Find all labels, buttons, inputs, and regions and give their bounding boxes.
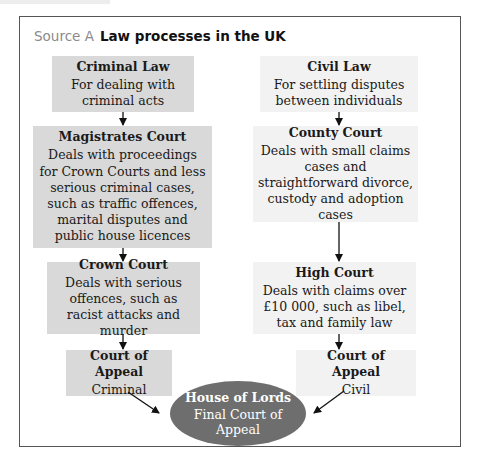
court-of-appeal-criminal-box: Court of Appeal Criminal: [66, 350, 172, 396]
court-of-appeal-civil-box: Court of Appeal Civil: [296, 350, 416, 396]
house-of-lords-heading: House of Lords: [185, 390, 291, 406]
county-court-box: County Court Deals with small claims cas…: [253, 126, 418, 222]
page-edge-strip: [0, 0, 110, 4]
high-court-box: High Court Deals with claims over £10 00…: [253, 262, 416, 334]
civil-law-heading: Civil Law: [307, 59, 370, 75]
court-of-appeal-civil-heading: Court of Appeal: [302, 348, 410, 380]
civil-law-description: For settling disputes between individual…: [264, 77, 414, 109]
criminal-law-heading: Criminal Law: [76, 59, 169, 75]
title-text: Law processes in the UK: [100, 28, 286, 44]
county-court-heading: County Court: [289, 125, 383, 141]
high-court-description: Deals with claims over £10 000, such as …: [260, 283, 410, 332]
criminal-law-box: Criminal Law For dealing with criminal a…: [52, 56, 194, 112]
county-court-description: Deals with small claims cases and straig…: [257, 143, 415, 224]
magistrates-court-description: Deals with proceedings for Crown Courts …: [38, 147, 208, 244]
crown-court-description: Deals with serious offences, such as rac…: [54, 275, 194, 340]
magistrates-court-heading: Magistrates Court: [59, 129, 187, 145]
diagram-title: Source ALaw processes in the UK: [34, 28, 286, 44]
high-court-heading: High Court: [295, 265, 373, 281]
civil-law-box: Civil Law For settling disputes between …: [260, 56, 418, 112]
court-of-appeal-civil-label: Civil: [342, 382, 371, 398]
crown-court-heading: Crown Court: [79, 257, 168, 273]
house-of-lords-description: Final Court of Appeal: [193, 407, 283, 438]
criminal-law-description: For dealing with criminal acts: [67, 77, 179, 109]
magistrates-court-box: Magistrates Court Deals with proceedings…: [33, 126, 212, 248]
source-label: Source A: [34, 28, 94, 44]
court-of-appeal-criminal-label: Criminal: [92, 382, 147, 398]
house-of-lords-ellipse: House of Lords Final Court of Appeal: [170, 381, 306, 446]
court-of-appeal-criminal-heading: Court of Appeal: [72, 348, 166, 380]
crown-court-box: Crown Court Deals with serious offences,…: [47, 262, 200, 334]
